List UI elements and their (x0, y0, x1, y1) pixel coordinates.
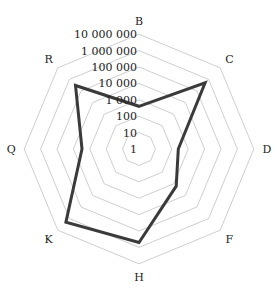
tick-label: 100 000 (92, 61, 138, 74)
tick-label: 100 (116, 110, 137, 123)
chart-spokes (24, 34, 254, 264)
axis-label-r: R (44, 53, 53, 66)
tick-label: 1 000 000 (81, 45, 137, 58)
series-line (66, 83, 205, 243)
axis-label-f: F (226, 233, 234, 246)
radar-chart: 1101001 00010 000100 0001 000 00010 000 … (0, 0, 278, 296)
axis-label-b: B (135, 15, 143, 28)
tick-label: 10 000 (99, 77, 138, 90)
axis-label-k: K (44, 233, 53, 246)
radial-tick-labels: 1101001 00010 000100 0001 000 00010 000 … (74, 28, 137, 156)
tick-label: 1 (130, 143, 137, 156)
tick-label: 1 000 (106, 94, 138, 107)
axis-label-d: D (262, 143, 271, 156)
radar-chart-svg: 1101001 00010 000100 0001 000 00010 000 … (0, 0, 278, 296)
axis-label-h: H (134, 271, 144, 284)
data-series (66, 83, 205, 243)
tick-label: 10 (123, 127, 137, 140)
axis-label-q: Q (7, 143, 16, 156)
tick-label: 10 000 000 (74, 28, 137, 41)
axis-label-c: C (225, 53, 233, 66)
